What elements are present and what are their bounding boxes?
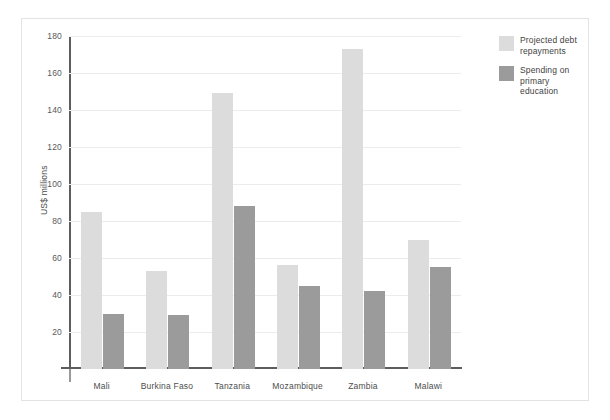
bar[interactable] — [430, 267, 451, 369]
bar-group: Burkina Faso — [134, 36, 199, 369]
bar-group: Malawi — [396, 36, 461, 369]
y-axis-tick-label: 120 — [47, 142, 62, 152]
bar[interactable] — [277, 265, 298, 369]
plot-area: 20406080100120140160180 MaliBurkina Faso… — [69, 36, 461, 369]
bar-group: Mozambique — [265, 36, 330, 369]
chart-figure: US$ millions 20406080100120140160180 Mal… — [21, 18, 589, 401]
y-axis-tick-label: 40 — [52, 290, 62, 300]
legend-item-label: Projected debt repayments — [520, 35, 589, 56]
bar[interactable] — [168, 315, 189, 369]
bar[interactable] — [234, 206, 255, 369]
chart-legend: Projected debt repaymentsSpending on pri… — [499, 35, 589, 106]
legend-item[interactable]: Spending on primary education — [499, 65, 589, 97]
bar[interactable] — [146, 271, 167, 369]
legend-swatch-icon — [499, 66, 514, 81]
y-axis-tick-label: 60 — [52, 253, 62, 263]
y-axis-tick-label: 140 — [47, 105, 62, 115]
bar[interactable] — [364, 291, 385, 369]
y-axis-label: US$ millions — [39, 165, 49, 215]
x-axis-tick-label: Malawi — [368, 381, 488, 391]
bar[interactable] — [103, 314, 124, 370]
legend-item[interactable]: Projected debt repayments — [499, 35, 589, 56]
bar[interactable] — [81, 212, 102, 369]
y-axis-tick-label: 20 — [52, 327, 62, 337]
bar-group: Zambia — [330, 36, 395, 369]
y-axis-tick-label: 180 — [47, 31, 62, 41]
y-axis-tick-label: 80 — [52, 216, 62, 226]
legend-swatch-icon — [499, 36, 514, 51]
bar[interactable] — [408, 240, 429, 370]
bar-group: Mali — [69, 36, 134, 369]
bar[interactable] — [342, 49, 363, 369]
legend-item-label: Spending on primary education — [520, 65, 589, 97]
bar[interactable] — [212, 93, 233, 369]
bar-group: Tanzania — [200, 36, 265, 369]
y-axis-tick-label: 100 — [47, 179, 62, 189]
y-axis-tick-label: 160 — [47, 68, 62, 78]
bar[interactable] — [299, 286, 320, 369]
